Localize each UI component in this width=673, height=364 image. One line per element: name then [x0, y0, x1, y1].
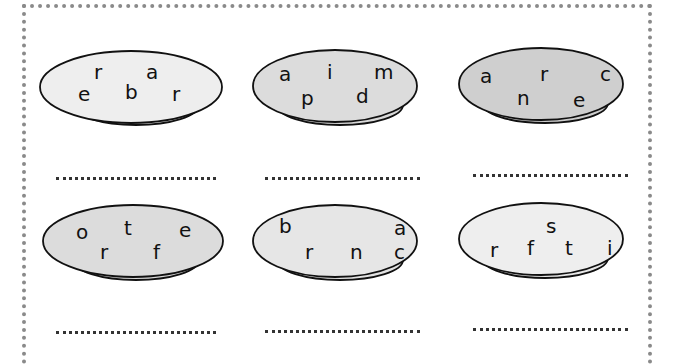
letter: t [565, 238, 573, 258]
letter: r [100, 242, 108, 262]
answer-line[interactable] [473, 170, 628, 177]
letter: a [279, 64, 291, 84]
plate-icon [36, 196, 226, 306]
answer-line[interactable] [473, 324, 628, 331]
letter: f [527, 238, 534, 258]
letter: n [517, 88, 530, 108]
letter: a [480, 66, 492, 86]
answer-line[interactable] [265, 326, 420, 333]
answer-line[interactable] [56, 327, 216, 334]
letter: d [356, 86, 369, 106]
plate-3: a r c n e [455, 40, 645, 200]
letter: c [600, 64, 611, 84]
letter: p [301, 88, 314, 108]
plate-5: b a r n c [247, 196, 437, 356]
letter: o [76, 222, 88, 242]
letter: r [305, 242, 313, 262]
answer-line[interactable] [265, 173, 420, 180]
letter: a [146, 62, 158, 82]
letter: r [540, 64, 548, 84]
plate-6: s r f t i [455, 196, 645, 356]
letter: r [94, 62, 102, 82]
plate-icon [455, 196, 645, 306]
plate-1: r a e b r [36, 40, 226, 200]
letter: b [125, 82, 138, 102]
letter: e [78, 84, 90, 104]
letter: s [546, 216, 556, 236]
plate-icon [455, 40, 645, 150]
letter: n [350, 242, 363, 262]
plate-4: o t e r f [36, 196, 226, 356]
letter: i [607, 238, 613, 258]
answer-line[interactable] [56, 173, 216, 180]
letter: r [490, 240, 498, 260]
plate-icon [247, 196, 437, 306]
plate-icon [247, 40, 437, 150]
letter: i [327, 62, 333, 82]
letter: f [153, 242, 160, 262]
letter: r [172, 84, 180, 104]
letter: t [124, 218, 132, 238]
letter: e [179, 220, 191, 240]
letter: b [279, 216, 292, 236]
letter: a [394, 218, 406, 238]
letter: e [573, 90, 585, 110]
letter: m [374, 62, 393, 82]
plate-2: a i m p d [247, 40, 437, 200]
letter: c [394, 242, 405, 262]
